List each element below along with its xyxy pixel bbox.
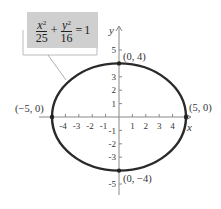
fraction-y: y2 16 <box>61 17 73 44</box>
svg-text:2: 2 <box>144 121 149 131</box>
point-right <box>184 115 188 119</box>
x-axis-label: x <box>186 121 192 133</box>
svg-text:-3: -3 <box>109 152 117 162</box>
svg-text:3: 3 <box>157 121 162 131</box>
svg-text:1: 1 <box>130 121 135 131</box>
label-left-point: (−5, 0) <box>15 103 44 115</box>
svg-text:-2: -2 <box>109 139 117 149</box>
point-left <box>50 115 54 119</box>
svg-text:3: 3 <box>112 72 117 82</box>
x-tick-labels: -4 -3 -2 -1 1 2 3 4 <box>59 121 175 131</box>
point-bottom <box>117 168 121 172</box>
svg-text:-1: -1 <box>109 126 117 136</box>
svg-text:-5: -5 <box>109 179 117 189</box>
svg-text:-1: -1 <box>100 121 108 131</box>
label-right-point: (5, 0) <box>189 102 212 114</box>
svg-text:1: 1 <box>112 99 117 109</box>
fraction-x: x2 25 <box>36 17 48 44</box>
svg-text:4: 4 <box>170 121 175 131</box>
plus-sign: + <box>51 23 58 38</box>
svg-text:5: 5 <box>112 45 117 55</box>
svg-text:-4: -4 <box>59 121 67 131</box>
equation-box: x2 25 + y2 16 = 1 <box>27 12 98 48</box>
svg-text:2: 2 <box>112 85 117 95</box>
svg-text:-3: -3 <box>73 121 81 131</box>
y-axis-label: y <box>108 24 114 36</box>
label-bottom-point: (0, −4) <box>123 173 152 185</box>
svg-text:-2: -2 <box>86 121 94 131</box>
point-top <box>117 61 121 65</box>
label-top-point: (0, 4) <box>123 51 146 63</box>
leader-line <box>48 55 66 80</box>
equation-rhs: 1 <box>84 23 90 38</box>
equals-sign: = <box>76 23 83 38</box>
